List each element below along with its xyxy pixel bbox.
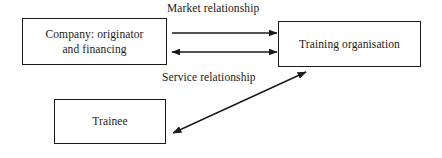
node-company-label: Company: originator and financing — [41, 27, 147, 55]
node-training-organisation-label: Training organisation — [295, 37, 404, 51]
node-training-organisation: Training organisation — [278, 21, 421, 67]
edge-label-market-relationship: Market relationship — [167, 2, 259, 14]
edge-label-service-relationship: Service relationship — [162, 71, 256, 83]
node-trainee: Trainee — [54, 99, 166, 144]
diagram-canvas: Company: originator and financing Traini… — [0, 0, 442, 158]
node-trainee-label: Trainee — [88, 114, 131, 128]
node-company: Company: originator and financing — [22, 18, 167, 65]
